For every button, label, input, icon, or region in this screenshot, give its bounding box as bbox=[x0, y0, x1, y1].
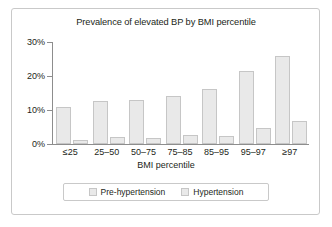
x-tick-label: 95–97 bbox=[241, 147, 266, 157]
chart-figure: Prevalence of elevated BP by BMI percent… bbox=[0, 0, 332, 227]
x-tick-label: 25–50 bbox=[94, 147, 119, 157]
bar-group bbox=[129, 42, 162, 144]
chart-title: Prevalence of elevated BP by BMI percent… bbox=[0, 17, 332, 27]
bar-group bbox=[166, 42, 199, 144]
x-tick-label: 50–75 bbox=[131, 147, 156, 157]
bar-pre-hypertension bbox=[202, 89, 217, 143]
bar-pre-hypertension bbox=[275, 56, 290, 144]
bar-group bbox=[56, 42, 89, 144]
legend-swatch bbox=[89, 188, 97, 196]
bar-hypertension bbox=[219, 136, 234, 143]
bar-hypertension bbox=[110, 137, 125, 144]
legend-item: Hypertension bbox=[181, 187, 243, 197]
y-tick-label: 30% bbox=[0, 37, 45, 47]
x-tick-label: ≥97 bbox=[282, 147, 297, 157]
y-tick-label: 20% bbox=[0, 71, 45, 81]
x-tick-label: 75–85 bbox=[167, 147, 192, 157]
plot-area bbox=[52, 42, 308, 144]
legend-label: Pre-hypertension bbox=[101, 187, 166, 197]
chart-legend: Pre-hypertensionHypertension bbox=[63, 183, 269, 201]
bar-group bbox=[275, 42, 308, 144]
bar-hypertension bbox=[183, 135, 198, 143]
y-tick-label: 10% bbox=[0, 105, 45, 115]
bar-group bbox=[239, 42, 272, 144]
bar-hypertension bbox=[73, 140, 88, 143]
x-tick-label: ≤25 bbox=[63, 147, 78, 157]
bar-pre-hypertension bbox=[129, 100, 144, 144]
legend-swatch bbox=[181, 188, 189, 196]
bar-hypertension bbox=[292, 121, 307, 144]
x-axis-title: BMI percentile bbox=[0, 160, 332, 170]
bar-group bbox=[202, 42, 235, 144]
legend-label: Hypertension bbox=[193, 187, 243, 197]
bar-hypertension bbox=[256, 128, 271, 144]
legend-item: Pre-hypertension bbox=[89, 187, 166, 197]
bar-pre-hypertension bbox=[56, 107, 71, 144]
y-tick-mark bbox=[47, 144, 52, 145]
bar-pre-hypertension bbox=[239, 71, 254, 143]
bar-hypertension bbox=[146, 138, 161, 143]
bar-pre-hypertension bbox=[166, 96, 181, 144]
bar-group bbox=[93, 42, 126, 144]
x-tick-label: 85–95 bbox=[204, 147, 229, 157]
bar-pre-hypertension bbox=[93, 101, 108, 144]
y-tick-label: 0% bbox=[0, 139, 45, 149]
x-axis-line bbox=[52, 144, 309, 145]
